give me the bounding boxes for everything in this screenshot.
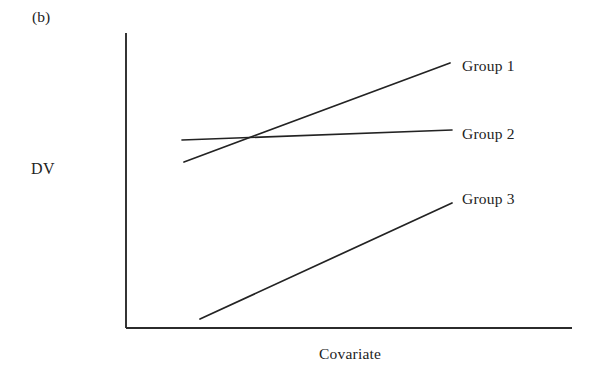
series-label-group-2: Group 2 [462, 126, 515, 142]
y-axis-title: DV [31, 161, 55, 177]
figure-panel: (b) DV Covariate Group 1 Group 2 Group 3 [0, 0, 596, 381]
x-axis-title: Covariate [319, 346, 381, 362]
text-layer: (b) DV Covariate Group 1 Group 2 Group 3 [0, 0, 596, 381]
series-label-group-1: Group 1 [462, 58, 515, 74]
panel-tag: (b) [32, 9, 50, 25]
series-label-group-3: Group 3 [462, 191, 515, 207]
